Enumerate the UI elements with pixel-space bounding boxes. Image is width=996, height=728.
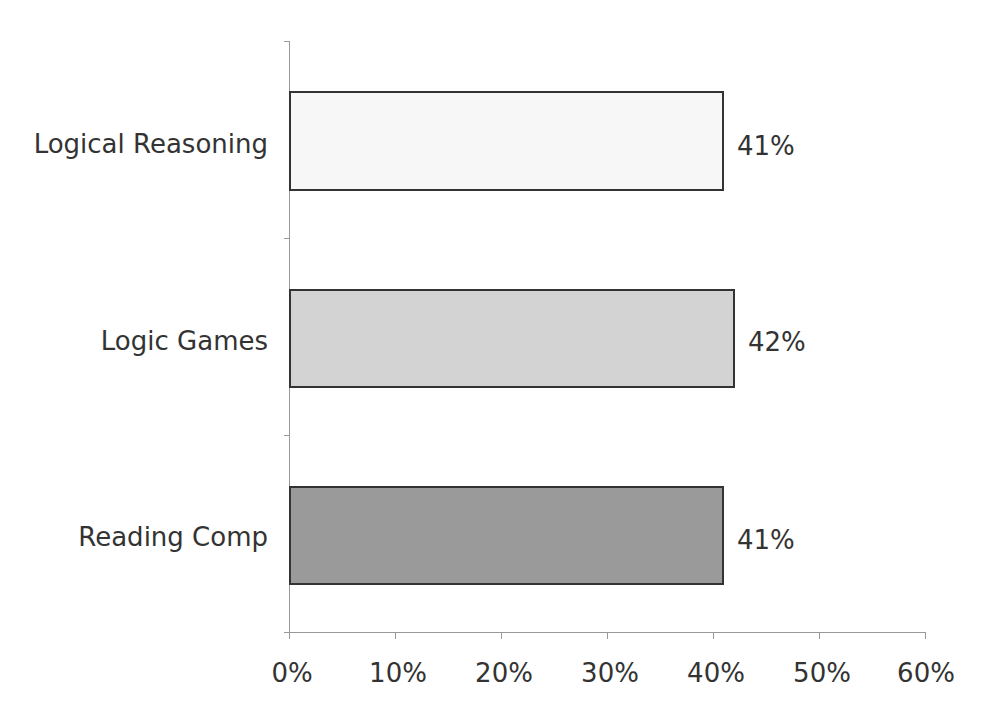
category-label: Logical Reasoning	[34, 129, 268, 159]
x-tick	[395, 632, 396, 639]
x-tick-label: 60%	[897, 658, 955, 688]
x-tick-label: 20%	[475, 658, 533, 688]
x-tick	[925, 632, 926, 639]
x-tick	[607, 632, 608, 639]
y-tick	[284, 238, 290, 239]
category-label: Reading Comp	[78, 522, 268, 552]
value-label: 41%	[737, 525, 795, 555]
bar-chart: 0% 10% 20% 30% 40% 50% 60% Logical Reaso…	[0, 0, 996, 728]
bar-logic-games	[289, 289, 735, 388]
x-tick-label: 50%	[793, 658, 851, 688]
x-tick-label: 10%	[369, 658, 427, 688]
x-tick	[289, 632, 290, 639]
x-tick-label: 30%	[581, 658, 639, 688]
y-tick	[284, 435, 290, 436]
x-tick	[819, 632, 820, 639]
category-label: Logic Games	[101, 326, 268, 356]
bar-reading-comp	[289, 486, 724, 585]
bar-logical-reasoning	[289, 91, 724, 191]
value-label: 42%	[748, 327, 806, 357]
x-tick	[713, 632, 714, 639]
x-tick	[501, 632, 502, 639]
y-tick	[284, 41, 290, 42]
x-tick-label: 40%	[687, 658, 745, 688]
value-label: 41%	[737, 131, 795, 161]
x-tick-label: 0%	[271, 658, 312, 688]
